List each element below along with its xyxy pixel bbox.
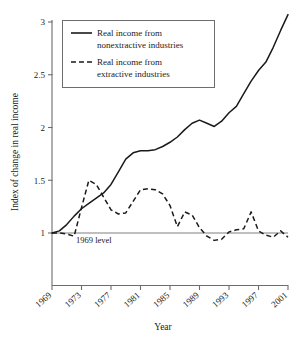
- legend-label-extractive-line2: extractive industries: [97, 69, 170, 79]
- x-axis-title: Year: [154, 322, 172, 332]
- y-tick-label: 2: [41, 123, 46, 133]
- x-tick-label: 1997: [240, 290, 260, 310]
- legend-label-nonextractive-line1: Real income from: [97, 28, 162, 38]
- x-tick-label: 1969: [33, 290, 53, 310]
- x-tick-label: 1993: [210, 290, 230, 310]
- x-tick-label: 1989: [181, 290, 201, 310]
- y-tick-label: 1.5: [34, 176, 46, 186]
- series-line-extractive: [52, 180, 288, 240]
- chart-canvas: 11.522.53 196919731977198119851989199319…: [0, 0, 306, 340]
- x-tick-label: 1981: [122, 290, 142, 309]
- y-tick-label: 1: [41, 228, 46, 238]
- y-axis-title: Index of change in real income: [10, 93, 20, 211]
- legend: Real income from nonextractive industrie…: [63, 21, 215, 88]
- legend-label-extractive-line1: Real income from: [97, 57, 162, 67]
- y-tick-group: 11.522.53: [34, 17, 53, 238]
- x-tick-group: 196919731977198119851989199319972001: [33, 285, 289, 310]
- income-index-line-chart: 11.522.53 196919731977198119851989199319…: [0, 0, 306, 340]
- y-tick-label: 3: [41, 17, 46, 27]
- x-tick-label: 1973: [63, 290, 83, 310]
- reference-line-label: 1969 level: [76, 235, 112, 245]
- x-tick-label: 2001: [269, 290, 289, 309]
- x-tick-label: 1985: [151, 290, 171, 310]
- legend-label-nonextractive-line2: nonextractive industries: [97, 40, 184, 50]
- x-tick-label: 1977: [92, 290, 112, 310]
- y-tick-label: 2.5: [34, 70, 46, 80]
